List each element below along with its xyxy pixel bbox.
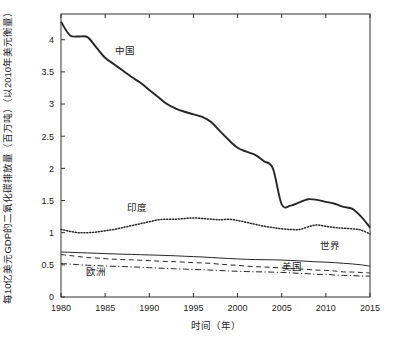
y-tick-label: 3.5 xyxy=(41,67,54,77)
y-tick-label: 2 xyxy=(49,164,54,174)
series-label-india: 印度 xyxy=(127,202,147,213)
x-axis-label: 时间（年） xyxy=(191,320,241,331)
y-tick-label: 3 xyxy=(49,99,54,109)
co2-intensity-line-chart: 1980198519901995200020052010201500.511.5… xyxy=(0,0,393,337)
x-tick-label: 2010 xyxy=(316,303,336,313)
x-tick-label: 2005 xyxy=(272,303,292,313)
y-tick-label: 4 xyxy=(49,35,54,45)
x-tick-label: 1995 xyxy=(183,303,203,313)
y-tick-label: 2.5 xyxy=(41,132,54,142)
y-tick-label: 1.5 xyxy=(41,196,54,206)
y-tick-label: 0 xyxy=(49,292,54,302)
y-tick-label: 0.5 xyxy=(41,260,54,270)
series-line-india xyxy=(61,218,370,234)
x-tick-label: 1990 xyxy=(139,303,159,313)
series-label-world: 世界 xyxy=(320,240,340,251)
x-tick-label: 2015 xyxy=(360,303,380,313)
x-tick-label: 1980 xyxy=(51,303,71,313)
x-tick-label: 1985 xyxy=(95,303,115,313)
x-tick-label: 2000 xyxy=(228,303,248,313)
series-line-europe xyxy=(61,264,370,277)
series-label-europe: 欧洲 xyxy=(86,266,106,277)
series-line-china xyxy=(61,22,370,228)
series-label-usa: 美国 xyxy=(282,261,302,272)
y-axis-label: 每10亿美元GDP的二氧化碳排放量（百万吨）（以2010年美元衡量） xyxy=(2,7,13,304)
series-label-china: 中国 xyxy=(115,45,135,56)
y-tick-label: 1 xyxy=(49,228,54,238)
chart-canvas: 1980198519901995200020052010201500.511.5… xyxy=(0,0,393,337)
plot-frame xyxy=(61,14,370,297)
